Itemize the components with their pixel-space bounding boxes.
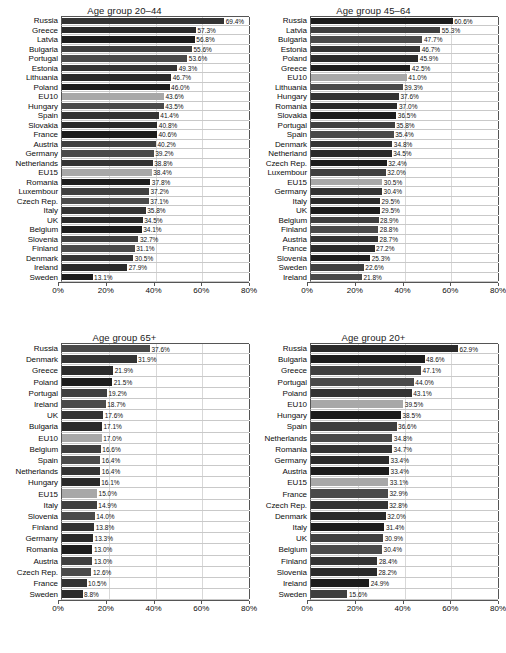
bar-row: Germany30.4% xyxy=(249,187,498,197)
gridline xyxy=(405,589,406,599)
bar-track: 14.9% xyxy=(61,500,249,511)
gridline xyxy=(498,45,499,54)
gridline xyxy=(451,488,452,498)
bar-track: 48.6% xyxy=(310,354,498,365)
bar-row: Spain36.6% xyxy=(249,421,498,432)
gridline xyxy=(451,83,452,92)
category-label: Italy xyxy=(0,501,61,510)
gridline xyxy=(451,140,452,149)
bar xyxy=(62,389,107,397)
bar-value-label: 34.8% xyxy=(392,140,412,150)
bar-row: Greece42.5% xyxy=(249,64,498,74)
gridline xyxy=(202,410,203,420)
category-label: UK xyxy=(249,206,310,215)
gridline xyxy=(498,178,499,187)
category-label: Austria xyxy=(249,467,310,476)
gridline xyxy=(451,365,452,375)
bar-track: 43.5% xyxy=(61,102,249,112)
gridline xyxy=(451,168,452,177)
bar-track: 16.4% xyxy=(61,466,249,477)
bar xyxy=(311,55,418,62)
bar-track: 32.8% xyxy=(310,500,498,511)
bar-value-label: 12.6% xyxy=(91,567,111,578)
category-label: Sweden xyxy=(249,263,310,272)
category-label: Bulgaria xyxy=(249,355,310,364)
bar-track: 34.1% xyxy=(61,225,249,235)
bar xyxy=(311,46,420,53)
bar-track: 22.6% xyxy=(310,263,498,273)
bar xyxy=(311,198,380,205)
bar-value-label: 31.4% xyxy=(384,522,404,533)
bar-track: 32.4% xyxy=(310,159,498,169)
gridline xyxy=(202,421,203,431)
bar xyxy=(62,179,150,186)
bar-track: 38.8% xyxy=(61,159,249,169)
x-axis: 0%20%40%60%80% xyxy=(307,282,498,300)
gridline xyxy=(451,130,452,139)
bar-row: Sweden22.6% xyxy=(249,263,498,273)
bar-track: 40.2% xyxy=(61,140,249,150)
gridline xyxy=(498,83,499,92)
gridline xyxy=(202,130,203,139)
gridline xyxy=(451,399,452,409)
bar-row: Luxembour32.0% xyxy=(249,168,498,178)
bar-track: 14.0% xyxy=(61,511,249,522)
bar-track: 53.6% xyxy=(61,54,249,64)
category-label: Netherlands xyxy=(249,434,310,443)
bar-track: 24.9% xyxy=(310,578,498,589)
bar-track: 28.7% xyxy=(310,235,498,245)
bar-track: 34.7% xyxy=(310,444,498,455)
bar-value-label: 17.0% xyxy=(102,433,122,444)
bar-row: Lithuania46.7% xyxy=(0,73,249,83)
x-axis: 0%20%40%60%80% xyxy=(307,600,498,618)
bar-value-label: 43.5% xyxy=(164,102,184,112)
gridline xyxy=(202,500,203,510)
bar-track: 69.4% xyxy=(61,16,249,26)
bar-value-label: 36.6% xyxy=(397,421,417,432)
bar-track: 62.9% xyxy=(310,343,498,354)
gridline xyxy=(156,399,157,409)
chart-title-20-44: Age group 20–44 xyxy=(0,0,249,16)
gridline xyxy=(498,578,499,588)
bar-value-label: 47.7% xyxy=(422,35,442,45)
gridline xyxy=(451,589,452,599)
axis-tick-label: 0% xyxy=(52,604,64,614)
category-label: Finland xyxy=(0,244,61,253)
gridline xyxy=(498,102,499,111)
bar-track: 16.1% xyxy=(61,477,249,488)
bar xyxy=(62,434,102,442)
category-label: Germany xyxy=(0,149,61,158)
chart-panel-20plus: Age group 20+ Russia62.9%Bulgaria48.6%Gr… xyxy=(249,327,498,653)
bar-track: 17.6% xyxy=(61,410,249,421)
bar-track: 32.7% xyxy=(61,235,249,245)
bar-value-label: 37.1% xyxy=(149,197,169,207)
gridline xyxy=(451,511,452,521)
gridline xyxy=(202,235,203,244)
bar-value-label: 21.5% xyxy=(112,377,132,388)
gridline xyxy=(202,365,203,375)
gridline xyxy=(498,216,499,225)
bar-row: Slovakia40.8% xyxy=(0,121,249,131)
category-label: Austria xyxy=(0,140,61,149)
bar-row: UK17.6% xyxy=(0,410,249,421)
bar-row: Netherlands34.8% xyxy=(249,433,498,444)
bar-track: 46.7% xyxy=(310,45,498,55)
gridline xyxy=(451,235,452,244)
gridline xyxy=(156,444,157,454)
gridline xyxy=(451,578,452,588)
bar xyxy=(62,545,92,553)
bar-track: 34.5% xyxy=(61,216,249,226)
bar xyxy=(311,534,383,542)
category-label: Germany xyxy=(249,456,310,465)
bar-row: Portugal53.6% xyxy=(0,54,249,64)
gridline xyxy=(202,178,203,187)
category-label: Netherlands xyxy=(0,159,61,168)
bar-value-label: 29.5% xyxy=(380,206,400,216)
bar xyxy=(62,467,100,475)
gridline xyxy=(202,344,203,353)
category-label: Belgium xyxy=(0,225,61,234)
bar-track: 37.2% xyxy=(61,187,249,197)
bar-value-label: 39.3% xyxy=(403,83,423,93)
gridline xyxy=(202,92,203,101)
bar-value-label: 30.5% xyxy=(133,254,153,264)
